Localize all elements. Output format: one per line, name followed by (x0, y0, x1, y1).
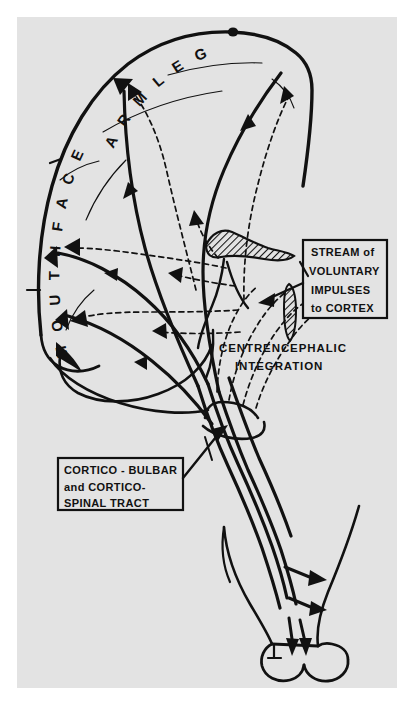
stream-box-line-3: IMPULSES (311, 284, 370, 296)
temporal-lobe-outline (50, 342, 212, 413)
centrencephalic-integration-caption: CENTRENCEPHALIC INTEGRATION (219, 342, 347, 372)
tract-box-line-3: SPINAL TRACT (64, 497, 149, 509)
stream-box-line-4: to CORTEX (311, 302, 374, 314)
stream-box-leader-arrowhead (258, 293, 275, 307)
centrencephalic-caption-line-2: INTEGRATION (235, 360, 323, 372)
tract-box-leader-line (183, 432, 220, 478)
centrencephalic-caption-line-1: CENTRENCEPHALIC (219, 342, 347, 354)
cortico-bulbar-spinal-tract-box[interactable]: CORTICO - BULBAR and CORTICO- SPINAL TRA… (58, 425, 228, 510)
diagram-canvas: A R M L E G M O U T H F A C E (0, 0, 415, 705)
stream-box-line-2: VOLUNTARY (309, 265, 380, 277)
cortex-label-arm-leg: A R M L E G (101, 42, 214, 150)
hatched-thalamic-mass (206, 231, 294, 261)
cortex-label-arm-leg-text: A R M L E G (101, 42, 214, 150)
descending-tract-bundle (198, 378, 296, 608)
vertex-marker-dot (228, 27, 238, 36)
stream-box-line-1: STREAM of (311, 246, 374, 258)
figure-root: A R M L E G M O U T H F A C E (0, 0, 415, 705)
hatched-brainstem-band (284, 284, 296, 341)
tract-box-line-2: and CORTICO- (64, 481, 146, 493)
tract-box-line-1: CORTICO - BULBAR (64, 464, 177, 476)
